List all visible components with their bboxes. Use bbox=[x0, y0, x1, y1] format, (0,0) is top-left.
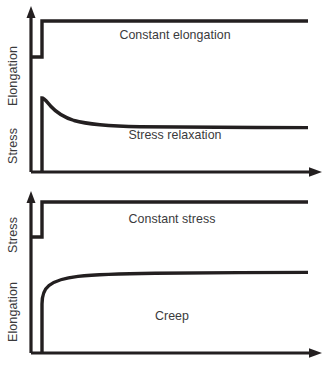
panel-creep: Stress Elongation Constant stress Creep bbox=[0, 185, 329, 369]
creep-x-axis-arrow-icon bbox=[309, 348, 322, 358]
relaxation-y-label-stress: Stress bbox=[6, 128, 20, 164]
stress-relaxation-label: Stress relaxation bbox=[128, 128, 221, 142]
relaxation-x-axis-arrow-icon bbox=[309, 167, 322, 177]
creep-y-label-elongation: Elongation bbox=[6, 282, 20, 342]
relaxation-y-axis-arrow-icon bbox=[27, 6, 36, 18]
stress-relaxation-creep-figure: Elongation Stress Constant elongation St… bbox=[0, 0, 329, 369]
constant-stress-label: Constant stress bbox=[129, 212, 216, 226]
relaxation-y-label-elongation: Elongation bbox=[6, 46, 20, 106]
creep-label: Creep bbox=[155, 309, 189, 323]
creep-y-label-stress: Stress bbox=[6, 217, 20, 253]
panel-stress-relaxation: Elongation Stress Constant elongation St… bbox=[0, 0, 329, 185]
creep-plot: Stress Elongation Constant stress Creep bbox=[0, 185, 329, 369]
creep-y-axis-arrow-icon bbox=[27, 191, 36, 203]
constant-elongation-label: Constant elongation bbox=[119, 28, 230, 42]
relaxation-plot: Elongation Stress Constant elongation St… bbox=[0, 0, 329, 185]
